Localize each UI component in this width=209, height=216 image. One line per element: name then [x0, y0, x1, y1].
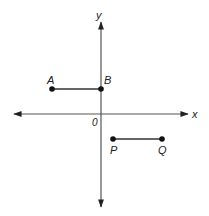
point-a-label: A: [46, 74, 54, 86]
point-b: [98, 86, 104, 92]
x-axis-label: x: [191, 108, 198, 120]
coordinate-plane: x y 0 A B P Q: [0, 0, 209, 216]
point-p: [110, 136, 116, 142]
point-b-label: B: [104, 74, 111, 86]
point-q: [159, 136, 165, 142]
point-a: [49, 86, 55, 92]
point-q-label: Q: [158, 144, 167, 156]
point-p-label: P: [110, 144, 118, 156]
origin-label: 0: [92, 117, 98, 128]
y-axis-label: y: [95, 9, 103, 21]
